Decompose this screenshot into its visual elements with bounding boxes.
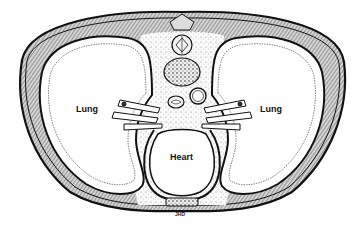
left-lung-label: Lung [76,104,98,114]
vertebral-body [164,58,200,86]
artist-signature: JHD [175,211,185,217]
heart [150,130,215,196]
right-lung-label: Lung [260,104,282,114]
sternum [166,198,198,206]
thorax-cross-section-diagram: Lung Lung Heart JHD [0,0,364,229]
esophagus [168,96,184,108]
heart-label: Heart [170,152,193,162]
